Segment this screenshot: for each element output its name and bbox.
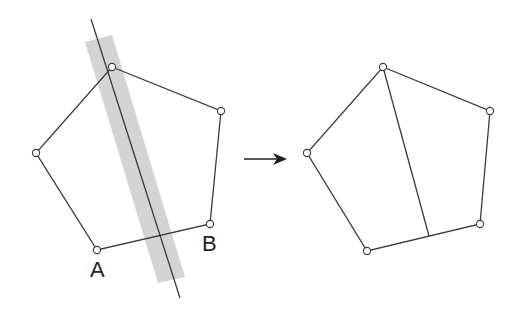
cut-segment	[383, 67, 429, 236]
vertex-dot	[206, 220, 213, 227]
left-pentagon-panel: A B	[32, 19, 224, 298]
vertex-dot	[476, 220, 483, 227]
vertex-dot	[379, 63, 386, 70]
vertex-dot	[217, 107, 224, 114]
vertex-label-b: B	[202, 231, 217, 256]
vertex-dot	[108, 63, 115, 70]
right-pentagon	[307, 67, 490, 251]
right-vertices	[303, 63, 493, 254]
right-pentagon-panel	[303, 63, 493, 254]
vertex-dot	[486, 107, 493, 114]
vertex-dot	[363, 247, 370, 254]
transform-arrow-icon	[244, 153, 287, 165]
vertex-label-a: A	[90, 257, 105, 282]
diagram-svg: A B	[0, 0, 518, 310]
vertex-dot	[93, 246, 100, 253]
diagram-canvas: A B	[0, 0, 518, 310]
vertex-dot	[303, 149, 310, 156]
vertex-dot	[32, 149, 39, 156]
